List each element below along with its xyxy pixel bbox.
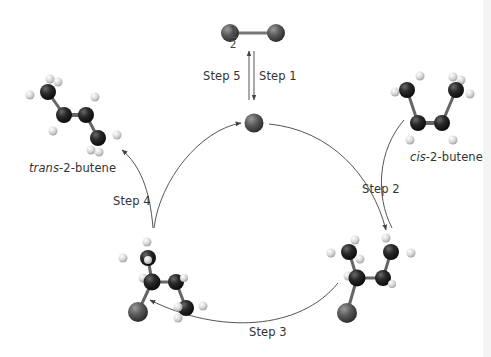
intermediate-left-molecule [119, 238, 208, 323]
intermediate-right-molecule [327, 234, 416, 324]
step4-label: Step 4 [113, 194, 151, 208]
step5-label: Step 5 [203, 69, 241, 83]
cycle-arrows [122, 120, 404, 323]
catalyst-atom [245, 114, 264, 133]
cis-2-butene-molecule [391, 72, 475, 145]
step1-label: Step 1 [259, 69, 297, 83]
cis-2-butene-label: cis-2-butene [410, 150, 483, 164]
fraction-one-half: 1 2 [228, 25, 238, 50]
step1-step5-arrows [249, 51, 254, 100]
fraction-denominator: 2 [230, 38, 237, 50]
trans-2-butene-molecule [26, 75, 122, 157]
fraction-numerator: 1 [230, 24, 237, 36]
step3-label: Step 3 [249, 325, 287, 339]
catalytic-cycle-diagram: 1 2 Step 5 Step 1 Step 2 Step 3 Step 4 t… [0, 0, 491, 357]
step2-label: Step 2 [362, 182, 400, 196]
trans-2-butene-label: trans-2-butene [29, 161, 116, 175]
